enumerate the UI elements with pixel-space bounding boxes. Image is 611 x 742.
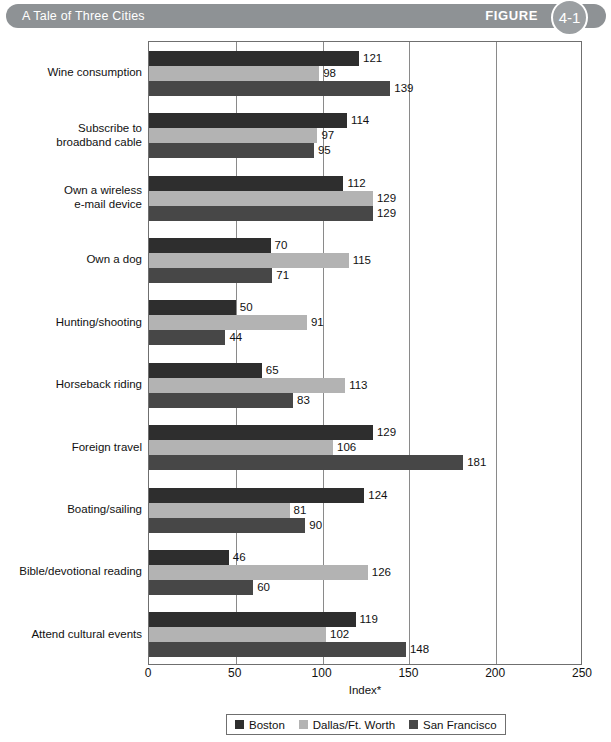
bar-group: 119102148 xyxy=(149,612,581,657)
x-tick-150: 150 xyxy=(398,666,418,680)
category-axis-labels: Wine consumptionSubscribe to broadband c… xyxy=(0,41,142,665)
bar-value-label: 97 xyxy=(321,128,334,143)
category-label: Subscribe to broadband cable xyxy=(0,121,142,149)
bar-san-francisco xyxy=(149,393,293,408)
bar-value-label: 124 xyxy=(368,488,387,503)
bar-san-francisco xyxy=(149,268,272,283)
x-tick-0: 0 xyxy=(145,666,152,680)
bar-group: 12198139 xyxy=(149,51,581,96)
bar-san-francisco xyxy=(149,455,463,470)
bar-value-label: 60 xyxy=(257,580,270,595)
bar-value-label: 139 xyxy=(394,81,413,96)
bar-san-francisco xyxy=(149,580,253,595)
bar-boston xyxy=(149,488,364,503)
legend-label: Boston xyxy=(249,719,285,731)
bar-value-label: 70 xyxy=(275,238,288,253)
bar-value-label: 46 xyxy=(233,550,246,565)
bar-group: 4612660 xyxy=(149,550,581,595)
bar-chart: Wine consumptionSubscribe to broadband c… xyxy=(0,0,611,742)
bar-value-label: 115 xyxy=(353,253,371,268)
bar-value-label: 129 xyxy=(377,191,396,206)
legend-label: Dallas/Ft. Worth xyxy=(313,719,395,731)
bar-dallas-ft-worth xyxy=(149,503,290,518)
bar-value-label: 50 xyxy=(240,300,253,315)
bar-dallas-ft-worth xyxy=(149,191,373,206)
category-label: Horseback riding xyxy=(0,377,142,391)
bar-san-francisco xyxy=(149,143,314,158)
bar-value-label: 102 xyxy=(330,627,349,642)
bar-value-label: 83 xyxy=(297,393,310,408)
legend-item: Boston xyxy=(235,719,285,731)
category-label: Boating/sailing xyxy=(0,502,142,516)
bar-group: 6511383 xyxy=(149,363,581,408)
bar-value-label: 113 xyxy=(349,378,367,393)
bar-value-label: 119 xyxy=(360,612,378,627)
bar-dallas-ft-worth xyxy=(149,128,317,143)
bar-value-label: 98 xyxy=(323,66,336,81)
bar-group: 1149795 xyxy=(149,113,581,158)
category-label: Bible/devotional reading xyxy=(0,564,142,578)
category-label: Foreign travel xyxy=(0,440,142,454)
legend-swatch-icon xyxy=(299,720,308,729)
category-label: Own a dog xyxy=(0,252,142,266)
bar-dallas-ft-worth xyxy=(149,315,307,330)
bar-value-label: 129 xyxy=(377,206,396,221)
bar-value-label: 181 xyxy=(467,455,486,470)
x-axis-tick-labels: 050100150200250 xyxy=(148,666,582,686)
bar-boston xyxy=(149,363,262,378)
bar-group: 509144 xyxy=(149,300,581,345)
bar-group: 112129129 xyxy=(149,176,581,221)
legend-item: Dallas/Ft. Worth xyxy=(299,719,395,731)
bar-dallas-ft-worth xyxy=(149,378,345,393)
bar-boston xyxy=(149,176,343,191)
bar-value-label: 65 xyxy=(266,363,279,378)
bar-value-label: 81 xyxy=(294,503,307,518)
bar-dallas-ft-worth xyxy=(149,627,326,642)
bar-value-label: 91 xyxy=(311,315,324,330)
bar-value-label: 44 xyxy=(229,330,242,345)
bar-boston xyxy=(149,51,359,66)
plot-area: 1219813911497951121291297011571509144651… xyxy=(148,41,582,665)
legend-swatch-icon xyxy=(409,720,418,729)
bar-san-francisco xyxy=(149,330,225,345)
x-tick-200: 200 xyxy=(485,666,505,680)
bar-san-francisco xyxy=(149,642,406,657)
bar-value-label: 112 xyxy=(347,176,365,191)
category-label: Hunting/shooting xyxy=(0,315,142,329)
bar-dallas-ft-worth xyxy=(149,565,368,580)
bar-group: 129106181 xyxy=(149,425,581,470)
bar-boston xyxy=(149,550,229,565)
bar-boston xyxy=(149,612,356,627)
x-tick-250: 250 xyxy=(572,666,592,680)
bar-value-label: 114 xyxy=(351,113,369,128)
bar-group: 1248190 xyxy=(149,488,581,533)
bar-value-label: 126 xyxy=(372,565,391,580)
x-tick-100: 100 xyxy=(312,666,332,680)
category-label: Own a wireless e-mail device xyxy=(0,183,142,211)
category-label: Wine consumption xyxy=(0,65,142,79)
bar-value-label: 95 xyxy=(318,143,331,158)
bar-san-francisco xyxy=(149,206,373,221)
bar-dallas-ft-worth xyxy=(149,253,349,268)
x-axis-title: Index* xyxy=(148,684,582,696)
bar-value-label: 106 xyxy=(337,440,356,455)
legend-label: San Francisco xyxy=(423,719,497,731)
bar-group: 7011571 xyxy=(149,238,581,283)
category-label: Attend cultural events xyxy=(0,627,142,641)
bar-value-label: 148 xyxy=(410,642,429,657)
bar-value-label: 121 xyxy=(363,51,382,66)
bar-boston xyxy=(149,300,236,315)
bar-boston xyxy=(149,425,373,440)
bar-dallas-ft-worth xyxy=(149,66,319,81)
bar-san-francisco xyxy=(149,81,390,96)
bar-dallas-ft-worth xyxy=(149,440,333,455)
bar-value-label: 90 xyxy=(309,518,322,533)
x-tick-50: 50 xyxy=(228,666,241,680)
chart-legend: BostonDallas/Ft. WorthSan Francisco xyxy=(226,714,506,735)
bar-boston xyxy=(149,113,347,128)
legend-item: San Francisco xyxy=(409,719,497,731)
legend-swatch-icon xyxy=(235,720,244,729)
bar-san-francisco xyxy=(149,518,305,533)
bar-value-label: 129 xyxy=(377,425,396,440)
bar-boston xyxy=(149,238,271,253)
